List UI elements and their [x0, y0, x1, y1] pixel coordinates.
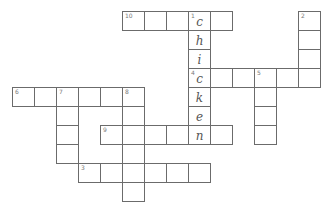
crossword-cell[interactable]: 7 — [56, 87, 79, 107]
crossword-cell[interactable]: n — [188, 125, 211, 145]
clue-number: 6 — [15, 88, 19, 96]
crossword-cell[interactable] — [210, 68, 233, 88]
crossword-cell[interactable] — [298, 30, 321, 50]
crossword-cell[interactable] — [100, 163, 123, 183]
clue-number: 5 — [257, 69, 261, 77]
clue-number: 3 — [81, 164, 85, 172]
crossword-cell[interactable] — [56, 106, 79, 126]
crossword-cell[interactable]: h — [188, 30, 211, 50]
crossword-cell[interactable] — [166, 163, 189, 183]
cell-letter: n — [189, 128, 210, 144]
cell-letter: c — [189, 14, 210, 30]
crossword-cell[interactable] — [122, 106, 145, 126]
crossword-cell[interactable] — [232, 68, 255, 88]
crossword-cell[interactable]: 2 — [298, 11, 321, 31]
clue-number: 2 — [301, 12, 305, 20]
cell-letter: k — [189, 90, 210, 106]
crossword-cell[interactable] — [122, 125, 145, 145]
crossword-cell[interactable] — [100, 87, 123, 107]
crossword-cell[interactable] — [298, 49, 321, 69]
crossword-cell[interactable] — [144, 125, 167, 145]
crossword-cell[interactable] — [122, 163, 145, 183]
cell-letter: e — [189, 109, 210, 125]
crossword-cell[interactable] — [122, 144, 145, 164]
crossword-cell[interactable] — [254, 125, 277, 145]
cell-letter: h — [189, 33, 210, 49]
crossword-cell[interactable] — [276, 68, 299, 88]
crossword-cell[interactable]: 3 — [78, 163, 101, 183]
crossword-cell[interactable] — [254, 106, 277, 126]
crossword-cell[interactable] — [210, 125, 233, 145]
crossword-cell[interactable] — [166, 11, 189, 31]
crossword-cell[interactable] — [34, 87, 57, 107]
crossword-cell[interactable] — [78, 87, 101, 107]
crossword-cell[interactable] — [56, 144, 79, 164]
crossword-cell[interactable] — [254, 87, 277, 107]
cell-letter: c — [189, 71, 210, 87]
clue-number: 10 — [125, 12, 133, 20]
crossword-cell[interactable] — [166, 125, 189, 145]
crossword-cell[interactable]: i — [188, 49, 211, 69]
clue-number: 8 — [125, 88, 129, 96]
crossword-cell[interactable]: 4c — [188, 68, 211, 88]
crossword-grid: 101chi4cken2567893 — [0, 0, 331, 208]
crossword-cell[interactable]: 9 — [100, 125, 123, 145]
crossword-cell[interactable]: 10 — [122, 11, 145, 31]
crossword-cell[interactable] — [298, 68, 321, 88]
crossword-cell[interactable]: k — [188, 87, 211, 107]
crossword-cell[interactable]: 8 — [122, 87, 145, 107]
crossword-cell[interactable]: 6 — [12, 87, 35, 107]
clue-number: 7 — [59, 88, 63, 96]
crossword-cell[interactable] — [144, 11, 167, 31]
crossword-cell[interactable]: e — [188, 106, 211, 126]
crossword-cell[interactable] — [188, 163, 211, 183]
clue-number: 9 — [103, 126, 107, 134]
crossword-cell[interactable] — [56, 125, 79, 145]
crossword-cell[interactable] — [144, 163, 167, 183]
crossword-cell[interactable]: 5 — [254, 68, 277, 88]
crossword-cell[interactable] — [122, 182, 145, 202]
crossword-cell[interactable]: 1c — [188, 11, 211, 31]
cell-letter: i — [189, 52, 210, 68]
crossword-cell[interactable] — [210, 11, 233, 31]
